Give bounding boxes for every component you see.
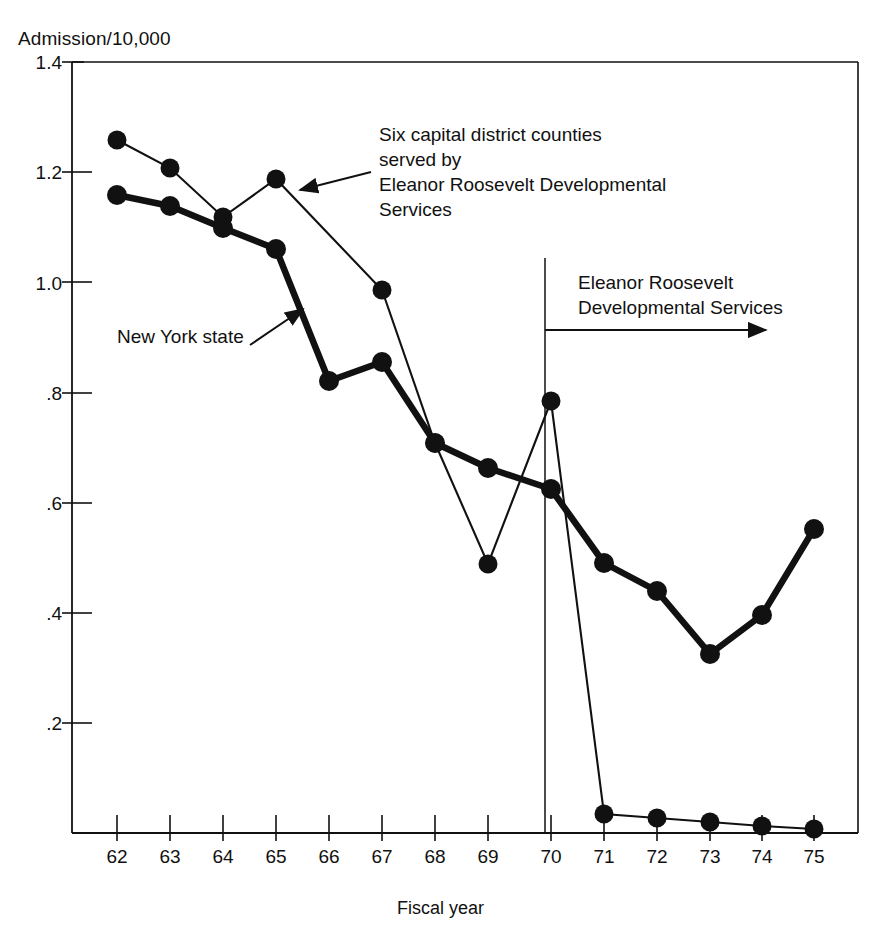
annotation-arrow-six-capital bbox=[300, 172, 371, 190]
series-six-capital-points bbox=[108, 131, 824, 839]
chart-figure: Admission/10,000 Fiscal year 1.4 1.2 1.0… bbox=[0, 0, 881, 932]
series-new-york-state bbox=[107, 185, 824, 664]
series-new-york-state-points bbox=[107, 185, 824, 664]
series-six-capital-district-counties bbox=[108, 131, 824, 839]
chart-axes bbox=[72, 62, 858, 833]
erds-period-divider bbox=[545, 258, 766, 833]
annotation-arrow-new-york-state bbox=[250, 309, 303, 345]
y-axis-ticks bbox=[62, 62, 92, 723]
chart-canvas bbox=[0, 0, 881, 932]
